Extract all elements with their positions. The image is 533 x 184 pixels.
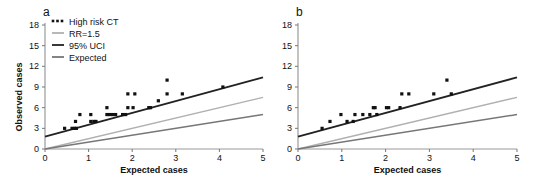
data-point [407,92,410,95]
y-tick-label: 18 [29,20,39,30]
y-tick-label: 6 [34,103,39,113]
y-axis-title: Observed cases [14,62,24,131]
data-point [450,92,453,95]
data-point [361,113,364,116]
panel-b: b0369121518012345Expected cases [282,5,520,175]
line-expected [298,115,517,149]
x-tick-label: 2 [383,153,388,163]
x-axis-title: Expected cases [374,165,442,175]
legend-label: Expected [69,53,107,63]
panel-a: a0369121518012345Expected casesObserved … [14,5,266,175]
data-point [181,92,184,95]
data-point [352,120,355,123]
legend-dots-icon [56,20,59,23]
panel-label: a [43,5,50,19]
line-rr-1-5 [298,97,517,149]
x-tick-label: 3 [427,153,432,163]
data-point [221,85,224,88]
x-tick-label: 5 [514,153,519,163]
x-tick-label: 5 [260,153,265,163]
y-tick-label: 3 [287,123,292,133]
legend-label: 95% UCI [69,41,105,51]
y-tick-label: 0 [34,144,39,154]
data-point [126,92,129,95]
data-point [400,92,403,95]
x-tick-label: 4 [471,153,476,163]
line-expected [45,115,263,149]
data-point [89,120,92,123]
y-tick-label: 9 [34,82,39,92]
data-point [328,120,331,123]
line-95-uci [298,77,517,136]
x-tick-label: 1 [339,153,344,163]
data-point [111,113,114,116]
y-tick-label: 12 [29,61,39,71]
y-tick-label: 3 [34,123,39,133]
data-point [114,113,117,116]
data-point [131,106,134,109]
data-point [445,79,448,82]
data-point [124,113,127,116]
legend-label: RR=1.5 [69,29,100,39]
data-point [345,120,348,123]
data-point [89,113,92,116]
data-point [432,92,435,95]
data-point [149,106,152,109]
legend-dots-icon [61,20,64,23]
figure: a0369121518012345Expected casesObserved … [0,0,533,184]
data-point [74,120,77,123]
data-point [339,113,342,116]
panel-label: b [296,5,303,19]
legend-dots-icon [52,20,55,23]
y-tick-label: 15 [29,41,39,51]
x-axis-title: Expected cases [120,165,188,175]
data-point [105,106,108,109]
y-tick-label: 15 [282,41,292,51]
data-point [320,127,323,130]
data-point [157,99,160,102]
data-point [63,127,66,130]
legend-label: High risk CT [69,17,119,27]
y-tick-label: 6 [287,103,292,113]
data-point [353,113,356,116]
data-point [126,106,129,109]
x-tick-label: 3 [173,153,178,163]
line-rr-1-5 [45,97,263,149]
y-tick-label: 18 [282,20,292,30]
legend: High risk CTRR=1.595% UCIExpected [52,17,119,63]
x-tick-label: 0 [42,153,47,163]
y-tick-label: 0 [287,144,292,154]
data-point [387,106,390,109]
data-point [108,113,111,116]
data-point [78,113,81,116]
x-tick-label: 2 [130,153,135,163]
y-tick-label: 9 [287,82,292,92]
data-point [133,92,136,95]
chart-canvas: a0369121518012345Expected casesObserved … [0,0,533,184]
data-point [368,113,371,116]
y-tick-label: 12 [282,61,292,71]
data-point [165,79,168,82]
data-point [121,113,124,116]
data-point [75,127,78,130]
x-tick-label: 4 [217,153,222,163]
data-point [398,106,401,109]
data-point [94,120,97,123]
data-point [165,92,168,95]
x-tick-label: 1 [86,153,91,163]
data-point [375,113,378,116]
data-point [373,106,376,109]
x-tick-label: 0 [295,153,300,163]
